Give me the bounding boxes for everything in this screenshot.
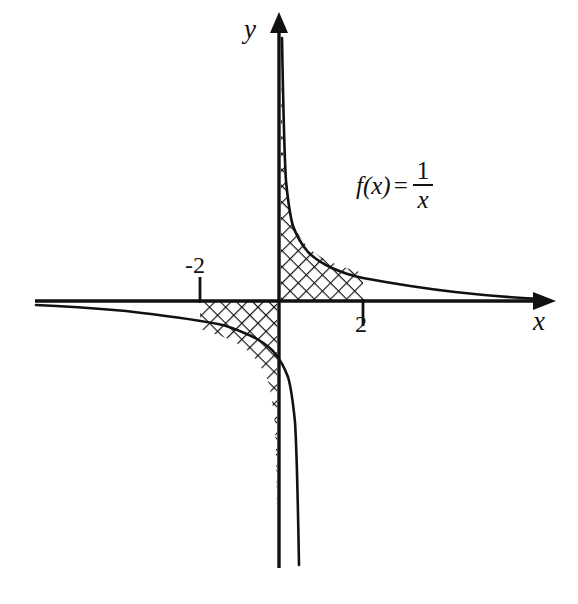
plot-canvas (0, 0, 578, 604)
formula-denominator: x (414, 186, 433, 212)
x-tick-label-neg-two: -2 (185, 253, 205, 277)
formula-numerator: 1 (413, 158, 434, 184)
function-formula-annotation: f(x) = 1 x (356, 160, 433, 212)
shaded-region-left (192, 295, 288, 575)
formula-equals-sign: = (394, 172, 408, 200)
figure-root: y x -2 2 f(x) = 1 x (0, 0, 578, 604)
formula-fraction: 1 x (413, 158, 434, 212)
x-tick-label-pos-two: 2 (355, 312, 367, 336)
formula-function-name: f(x) (356, 172, 391, 200)
y-axis-label: y (244, 16, 256, 43)
x-axis-label: x (533, 308, 545, 335)
